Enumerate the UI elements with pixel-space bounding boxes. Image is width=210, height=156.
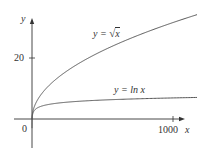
x-axis-label: x <box>185 125 189 135</box>
origin-label: 0 <box>22 124 27 134</box>
x-tick-label-1000: 1000 <box>158 125 178 135</box>
plot-area <box>0 0 210 156</box>
ln-curve-label: y = ln x <box>114 85 145 95</box>
y-tick-label-20: 20 <box>14 53 24 63</box>
y-axis-label: y <box>21 14 25 24</box>
sqrt-curve-label: y = √x <box>93 28 120 39</box>
x-axis-arrow-icon <box>179 117 185 121</box>
y-axis-arrow-icon <box>30 18 34 24</box>
